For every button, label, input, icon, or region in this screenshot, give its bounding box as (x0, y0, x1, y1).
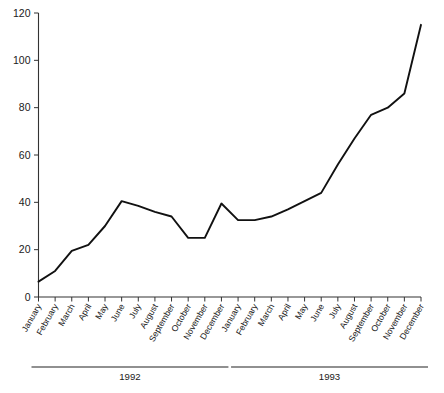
y-axis-tick-labels: 020406080100120 (13, 7, 31, 303)
y-tick-label: 100 (13, 54, 31, 66)
x-tick-label: March (256, 302, 277, 328)
chart-plot-area: 020406080100120 JanuaryFebruaryMarchApri… (0, 0, 444, 393)
y-tick-label: 0 (25, 291, 31, 303)
x-axis-tick-labels: JanuaryFebruaryMarchAprilMayJuneJulyAugu… (19, 301, 426, 343)
y-tick-label: 40 (19, 196, 31, 208)
x-tick-label: June (109, 302, 127, 323)
x-axis-ticks (39, 297, 422, 302)
x-axis: JanuaryFebruaryMarchAprilMayJuneJulyAugu… (19, 297, 426, 343)
data-line-series (39, 25, 422, 282)
x-tick-label: July (127, 301, 144, 320)
y-axis-ticks (34, 13, 39, 297)
line-chart: 020406080100120 JanuaryFebruaryMarchApri… (0, 0, 444, 393)
x-tick-label: March (56, 302, 77, 328)
y-tick-label: 120 (13, 7, 31, 19)
y-tick-label: 60 (19, 149, 31, 161)
x-tick-label: April (76, 302, 93, 322)
y-axis: 020406080100120 (13, 7, 39, 303)
y-tick-label: 80 (19, 101, 31, 113)
year-group-axis: 19921993 (32, 367, 429, 382)
year-group-label: 1992 (119, 371, 140, 382)
data-series (39, 25, 422, 282)
x-tick-label: July (326, 301, 343, 320)
x-tick-label: April (276, 302, 293, 322)
x-tick-label: June (308, 302, 326, 323)
year-group-label: 1993 (319, 371, 340, 382)
y-tick-label: 20 (19, 243, 31, 255)
